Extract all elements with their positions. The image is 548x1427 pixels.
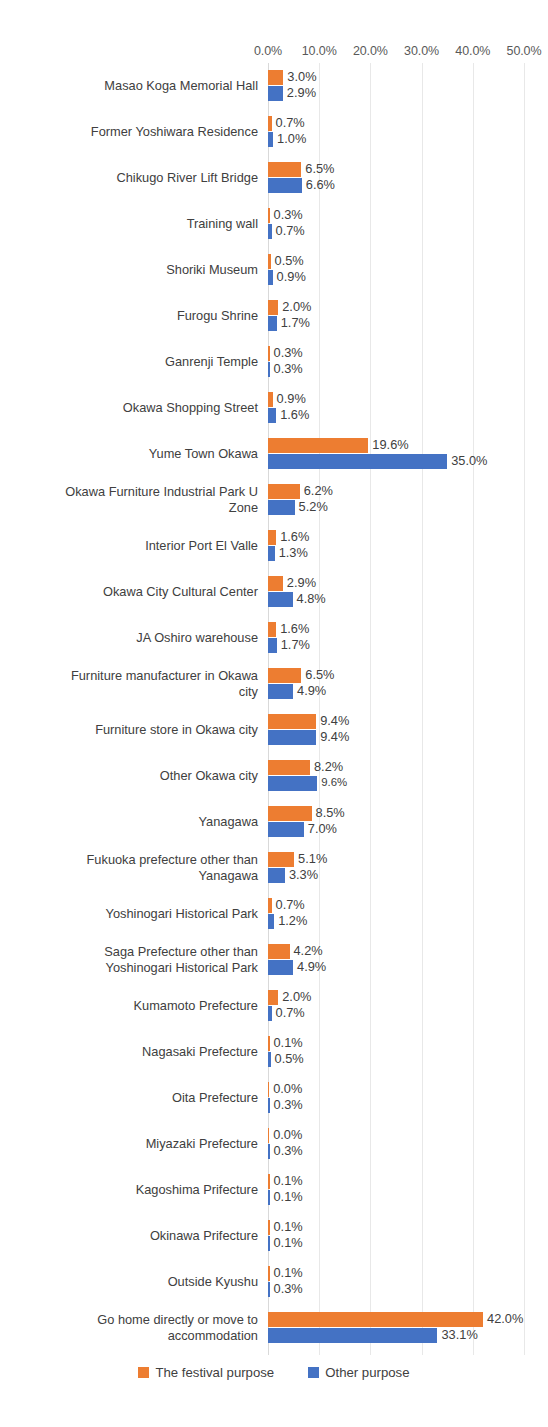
chart-row: Outside Kyushu0.1%0.3%	[0, 1259, 548, 1305]
bar-group: 2.9%4.8%	[268, 569, 548, 615]
bar-value-label: 1.2%	[274, 913, 307, 928]
bar-group: 2.0%0.7%	[268, 983, 548, 1029]
bar-value-label: 6.2%	[300, 483, 333, 498]
bar-segment[interactable]	[268, 1312, 483, 1327]
bar-value-label: 0.3%	[270, 361, 303, 376]
bar-segment[interactable]	[268, 162, 301, 177]
chart-row: Former Yoshiwara Residence0.7%1.0%	[0, 109, 548, 155]
bar-segment[interactable]	[268, 178, 302, 193]
category-label: Miyazaki Prefecture	[8, 1121, 258, 1167]
bar-group: 19.6%35.0%	[268, 431, 548, 477]
bar-segment[interactable]	[268, 530, 276, 545]
legend-swatch-icon	[308, 1367, 319, 1378]
category-label: Furogu Shrine	[8, 293, 258, 339]
x-axis-tick-label: 40.0%	[455, 44, 490, 58]
chart-row: Saga Prefecture other than Yoshinogari H…	[0, 937, 548, 983]
bar-segment[interactable]	[268, 638, 277, 653]
bar-segment[interactable]	[268, 592, 293, 607]
category-label: Fukuoka prefecture other than Yanagawa	[8, 845, 258, 891]
bar-value-label: 2.0%	[278, 989, 311, 1004]
category-label: Masao Koga Memorial Hall	[8, 63, 258, 109]
category-label: Training wall	[8, 201, 258, 247]
bar-segment[interactable]	[268, 684, 293, 699]
bar-group: 8.5%7.0%	[268, 799, 548, 845]
bar-value-label: 1.0%	[273, 131, 306, 146]
bar-value-label: 33.1%	[437, 1327, 477, 1342]
bar-segment[interactable]	[268, 960, 293, 975]
chart-row: Okawa Shopping Street0.9%1.6%	[0, 385, 548, 431]
bar-segment[interactable]	[268, 438, 368, 453]
bar-segment[interactable]	[268, 714, 316, 729]
bar-group: 9.4%9.4%	[268, 707, 548, 753]
bar-segment[interactable]	[268, 86, 283, 101]
chart-row: Other Okawa city8.2%9.6%	[0, 753, 548, 799]
bar-segment[interactable]	[268, 760, 310, 775]
bar-segment[interactable]	[268, 70, 283, 85]
bar-value-label: 0.3%	[270, 1097, 303, 1112]
bar-value-label: 3.3%	[285, 867, 318, 882]
chart-title	[0, 0, 548, 16]
chart-row: Furniture manufacturer in Okawa city6.5%…	[0, 661, 548, 707]
bar-value-label: 0.3%	[270, 1143, 303, 1158]
bar-segment[interactable]	[268, 990, 278, 1005]
category-label: Yume Town Okawa	[8, 431, 258, 477]
bar-group: 0.7%1.0%	[268, 109, 548, 155]
bar-value-label: 0.5%	[271, 253, 304, 268]
chart-legend: The festival purposeOther purpose	[0, 1365, 548, 1380]
bar-value-label: 0.7%	[272, 1005, 305, 1020]
legend-label: The festival purpose	[155, 1365, 274, 1380]
legend-swatch-icon	[138, 1367, 149, 1378]
category-label: Other Okawa city	[8, 753, 258, 799]
bar-group: 6.5%6.6%	[268, 155, 548, 201]
bar-group: 0.5%0.9%	[268, 247, 548, 293]
bar-group: 0.3%0.7%	[268, 201, 548, 247]
bar-segment[interactable]	[268, 806, 312, 821]
bar-segment[interactable]	[268, 576, 283, 591]
bar-value-label: 0.3%	[270, 1281, 303, 1296]
bar-segment[interactable]	[268, 454, 447, 469]
bar-segment[interactable]	[268, 776, 317, 791]
bar-segment[interactable]	[268, 730, 316, 745]
bar-segment[interactable]	[268, 1328, 437, 1343]
bar-group: 0.0%0.3%	[268, 1121, 548, 1167]
bar-value-label: 7.0%	[304, 821, 337, 836]
bar-value-label: 0.1%	[270, 1173, 303, 1188]
bar-segment[interactable]	[268, 944, 290, 959]
chart-row: Training wall0.3%0.7%	[0, 201, 548, 247]
bar-group: 1.6%1.3%	[268, 523, 548, 569]
legend-item[interactable]: Other purpose	[308, 1365, 409, 1380]
bar-segment[interactable]	[268, 852, 294, 867]
bar-value-label: 0.1%	[270, 1265, 303, 1280]
category-label: Okawa Shopping Street	[8, 385, 258, 431]
bar-segment[interactable]	[268, 408, 276, 423]
bar-value-label: 8.5%	[312, 805, 345, 820]
bar-segment[interactable]	[268, 868, 285, 883]
bar-value-label: 9.4%	[316, 729, 349, 744]
bar-value-label: 0.7%	[272, 115, 305, 130]
x-axis-tick-label: 20.0%	[353, 44, 388, 58]
bar-value-label: 2.9%	[283, 85, 316, 100]
bar-segment[interactable]	[268, 500, 295, 515]
legend-item[interactable]: The festival purpose	[138, 1365, 274, 1380]
chart-row: Shoriki Museum0.5%0.9%	[0, 247, 548, 293]
bar-value-label: 0.3%	[270, 207, 303, 222]
category-label: Former Yoshiwara Residence	[8, 109, 258, 155]
bar-segment[interactable]	[268, 546, 275, 561]
bar-value-label: 0.1%	[270, 1235, 303, 1250]
category-label: Okawa City Cultural Center	[8, 569, 258, 615]
bar-value-label: 0.5%	[271, 1051, 304, 1066]
bar-segment[interactable]	[268, 622, 276, 637]
bar-segment[interactable]	[268, 822, 304, 837]
chart-row: Masao Koga Memorial Hall3.0%2.9%	[0, 63, 548, 109]
category-label: Kagoshima Prifecture	[8, 1167, 258, 1213]
bar-value-label: 4.2%	[290, 943, 323, 958]
bar-segment[interactable]	[268, 484, 300, 499]
bar-value-label: 5.1%	[294, 851, 327, 866]
chart-row: Yoshinogari Historical Park0.7%1.2%	[0, 891, 548, 937]
bar-segment[interactable]	[268, 300, 278, 315]
bar-segment[interactable]	[268, 316, 277, 331]
bar-value-label: 0.7%	[272, 897, 305, 912]
bar-segment[interactable]	[268, 668, 301, 683]
bar-value-label: 0.7%	[272, 223, 305, 238]
bar-group: 3.0%2.9%	[268, 63, 548, 109]
